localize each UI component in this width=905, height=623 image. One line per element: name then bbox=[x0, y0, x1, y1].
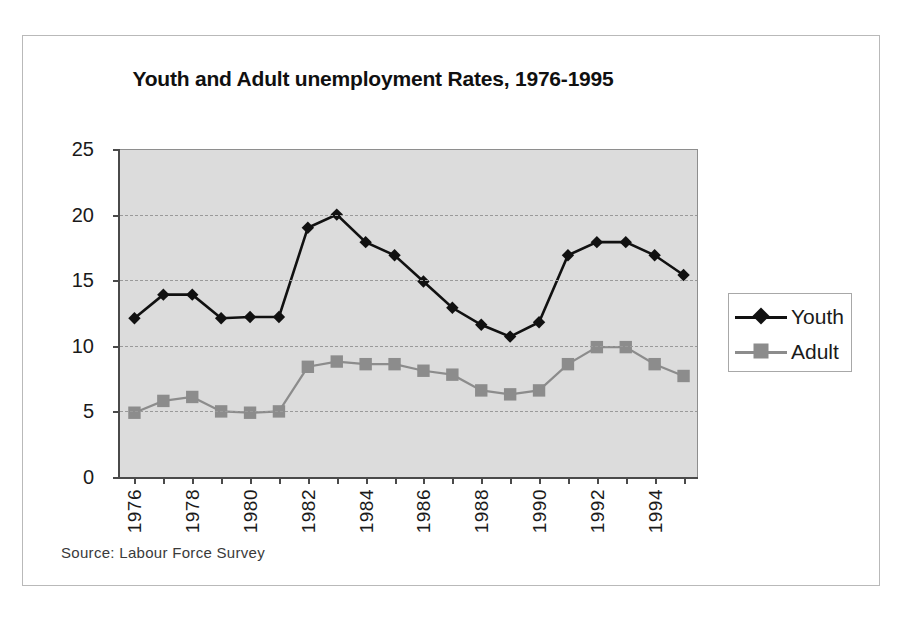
data-point-diamond-icon bbox=[475, 319, 487, 331]
data-point-square-icon bbox=[446, 368, 458, 380]
data-point-diamond-icon bbox=[562, 249, 574, 261]
x-axis-tick-label: 1994 bbox=[645, 489, 667, 533]
gridline bbox=[120, 215, 698, 216]
series-svg bbox=[120, 149, 698, 477]
data-point-square-icon bbox=[677, 370, 689, 382]
x-axis-tick-mark bbox=[134, 477, 136, 484]
y-axis-tick-mark bbox=[113, 215, 120, 217]
legend-swatch-youth bbox=[735, 305, 787, 327]
y-axis-tick-label: 5 bbox=[34, 400, 94, 423]
legend-entry-adult: Adult bbox=[729, 334, 851, 368]
x-axis-tick-mark bbox=[597, 477, 599, 484]
data-point-square-icon bbox=[417, 365, 429, 377]
data-point-square-icon bbox=[504, 388, 516, 400]
source-note: Source: Labour Force Survey bbox=[61, 544, 265, 561]
y-axis-tick-label: 10 bbox=[34, 334, 94, 357]
x-axis-tick-mark bbox=[163, 477, 165, 484]
legend-label-adult: Adult bbox=[791, 341, 839, 362]
x-axis-tick-mark bbox=[423, 477, 425, 484]
x-axis-tick-label: 1978 bbox=[182, 489, 204, 533]
x-axis-tick-mark bbox=[395, 477, 397, 484]
data-point-diamond-icon bbox=[620, 236, 632, 248]
x-axis-tick-mark bbox=[250, 477, 252, 484]
x-axis-tick-label: 1992 bbox=[587, 489, 609, 533]
x-axis-tick-mark bbox=[192, 477, 194, 484]
data-point-square-icon bbox=[533, 384, 545, 396]
data-point-square-icon bbox=[475, 384, 487, 396]
chart-title: Youth and Adult unemployment Rates, 1976… bbox=[23, 67, 723, 91]
legend-label-youth: Youth bbox=[791, 306, 844, 327]
data-point-square-icon bbox=[331, 355, 343, 367]
x-axis-tick-label: 1990 bbox=[529, 489, 551, 533]
y-axis-tick-label: 20 bbox=[34, 203, 94, 226]
x-axis-tick-mark bbox=[684, 477, 686, 484]
y-axis-tick-mark bbox=[113, 411, 120, 413]
x-axis-tick-label: 1980 bbox=[240, 489, 262, 533]
y-axis-tick-label: 0 bbox=[34, 466, 94, 489]
series-line-adult bbox=[134, 347, 683, 413]
data-point-diamond-icon bbox=[533, 316, 545, 328]
y-axis-tick-mark bbox=[113, 280, 120, 282]
diamond-marker-icon bbox=[753, 308, 770, 325]
y-axis-tick-mark bbox=[113, 477, 120, 479]
x-axis-tick-mark bbox=[308, 477, 310, 484]
x-axis-tick-mark bbox=[655, 477, 657, 484]
data-point-square-icon bbox=[388, 358, 400, 370]
x-axis-tick-mark bbox=[221, 477, 223, 484]
data-point-square-icon bbox=[359, 358, 371, 370]
x-axis-tick-label: 1982 bbox=[298, 489, 320, 533]
data-point-square-icon bbox=[128, 407, 140, 419]
data-point-square-icon bbox=[620, 341, 632, 353]
data-point-diamond-icon bbox=[591, 236, 603, 248]
x-axis-tick-mark bbox=[337, 477, 339, 484]
legend-entry-youth: Youth bbox=[729, 299, 851, 333]
x-axis-tick-label: 1976 bbox=[124, 489, 146, 533]
data-point-diamond-icon bbox=[302, 222, 314, 234]
data-point-square-icon bbox=[244, 407, 256, 419]
plot-wrapper: 0510152025197619781980198219841986198819… bbox=[96, 149, 696, 479]
x-axis-tick-mark bbox=[279, 477, 281, 484]
y-axis-tick-mark bbox=[113, 346, 120, 348]
data-point-diamond-icon bbox=[504, 330, 516, 342]
x-axis-tick-mark bbox=[452, 477, 454, 484]
data-point-square-icon bbox=[562, 358, 574, 370]
x-axis-tick-mark bbox=[539, 477, 541, 484]
legend-swatch-adult bbox=[735, 340, 787, 362]
gridline bbox=[120, 346, 698, 347]
plot-area: 0510152025197619781980198219841986198819… bbox=[118, 149, 698, 479]
x-axis-tick-mark bbox=[481, 477, 483, 484]
data-point-square-icon bbox=[302, 361, 314, 373]
chart-figure: Youth and Adult unemployment Rates, 1976… bbox=[22, 35, 880, 586]
x-axis-tick-label: 1984 bbox=[356, 489, 378, 533]
data-point-diamond-icon bbox=[273, 311, 285, 323]
chart-legend: Youth Adult bbox=[728, 293, 852, 372]
data-point-diamond-icon bbox=[244, 311, 256, 323]
square-marker-icon bbox=[754, 344, 769, 359]
x-axis-tick-label: 1988 bbox=[471, 489, 493, 533]
y-axis-tick-mark bbox=[113, 149, 120, 151]
gridline bbox=[120, 280, 698, 281]
data-point-square-icon bbox=[591, 341, 603, 353]
x-axis-tick-mark bbox=[568, 477, 570, 484]
x-axis-tick-mark bbox=[626, 477, 628, 484]
x-axis-tick-mark bbox=[366, 477, 368, 484]
x-axis-tick-label: 1986 bbox=[413, 489, 435, 533]
x-axis-tick-mark bbox=[510, 477, 512, 484]
data-point-square-icon bbox=[648, 358, 660, 370]
y-axis-tick-label: 25 bbox=[34, 138, 94, 161]
data-point-square-icon bbox=[186, 391, 198, 403]
data-point-square-icon bbox=[157, 395, 169, 407]
y-axis-tick-label: 15 bbox=[34, 269, 94, 292]
gridline bbox=[120, 411, 698, 412]
